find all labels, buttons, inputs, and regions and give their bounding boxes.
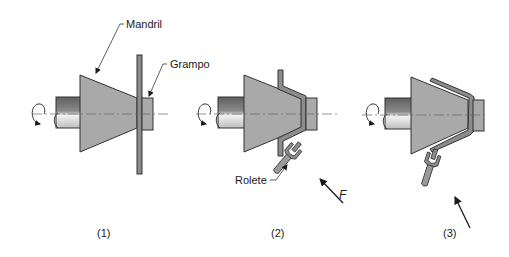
stage-1: Mandril Grampo (1) (32, 18, 210, 239)
shaft (385, 98, 413, 129)
roller-tool (270, 139, 305, 177)
stage-2-caption: (2) (271, 227, 284, 239)
roller-tool (417, 147, 442, 188)
stage-2: Rolete F (2) (196, 70, 347, 239)
mandrel (411, 77, 468, 154)
clamp (473, 100, 484, 131)
rotation-arrow-icon (366, 104, 374, 124)
shaft (218, 97, 246, 128)
mandrel-label: Mandril (126, 18, 162, 30)
force-arrow-icon (455, 197, 470, 228)
roller-label: Rolete (235, 174, 267, 186)
stage-3: (3) (362, 77, 488, 239)
shaft (56, 97, 82, 128)
clamp-label: Grampo (170, 58, 210, 70)
spinning-diagram: Mandril Grampo (1) Rolete F (2) (0, 0, 509, 257)
mandrel (80, 75, 137, 152)
mandrel (244, 75, 302, 152)
blank (137, 55, 142, 174)
force-label: F (339, 188, 347, 202)
stage-1-caption: (1) (97, 227, 110, 239)
stage-3-caption: (3) (443, 227, 456, 239)
